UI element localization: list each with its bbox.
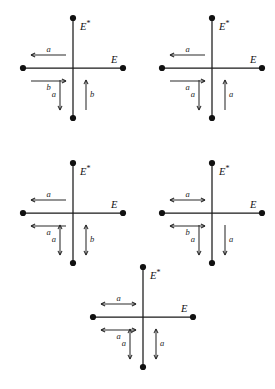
diagram-5-lower-left-arrow-label: a (116, 331, 120, 341)
diagram-2-horizontal-axis-label: E (249, 54, 257, 65)
diagram-1-horizontal-axis-label: E (110, 54, 118, 65)
diagram-2-lower-left-arrow-label: a (185, 82, 189, 92)
diagram-1-node-left (20, 65, 26, 71)
diagram-1-upper-left-arrow-label: a (46, 44, 50, 54)
diagram-2-upper-left-arrow-label: a (185, 44, 189, 54)
diagram-3-vertical-axis-star: * (87, 164, 91, 173)
diagram-5-right-vertical-arrow-label: a (160, 338, 164, 348)
diagram-2: E*Eaaaa (159, 15, 265, 121)
diagram-4-upper-left-arrow-label: a (185, 189, 189, 199)
diagram-5-vertical-axis-star: * (157, 268, 161, 277)
diagram-5-node-top (140, 264, 146, 270)
diagram-5: E*Eaaaa (90, 264, 196, 370)
diagram-4-node-right (259, 210, 265, 216)
diagram-3-lower-left-arrow-label: a (46, 227, 50, 237)
diagram-4-node-left (159, 210, 165, 216)
diagram-2-node-bottom (209, 115, 215, 121)
diagram-2-node-top (209, 15, 215, 21)
diagram-1-node-bottom (70, 115, 76, 121)
diagram-5-left-vertical-arrow-label: a (122, 338, 126, 348)
diagram-3-left-vertical-arrow-label: a (52, 234, 56, 244)
figure-canvas: E*EababE*EaaaaE*EaaabE*EabaaE*Eaaaa (0, 0, 275, 389)
diagram-5-node-left (90, 314, 96, 320)
diagram-3-upper-left-arrow-label: a (46, 189, 50, 199)
diagram-3-node-bottom (70, 260, 76, 266)
diagram-1-right-vertical-arrow-label: b (90, 89, 94, 99)
diagram-2-left-vertical-arrow-label: a (191, 89, 195, 99)
diagram-2-right-vertical-arrow-label: a (229, 89, 233, 99)
diagram-1-node-top (70, 15, 76, 21)
diagram-1: E*Eabab (20, 15, 126, 121)
diagram-1-left-vertical-arrow-label: a (52, 89, 56, 99)
diagram-2-node-left (159, 65, 165, 71)
diagram-5-horizontal-axis-label: E (180, 303, 188, 314)
diagram-1-vertical-axis-star: * (87, 19, 91, 28)
diagram-3-node-right (120, 210, 126, 216)
diagram-3-right-vertical-arrow-label: b (90, 234, 94, 244)
diagram-4-left-vertical-arrow-label: a (191, 234, 195, 244)
diagram-1-lower-left-arrow-label: b (46, 82, 50, 92)
diagram-3-horizontal-axis-label: E (110, 199, 118, 210)
diagram-layer: E*EababE*EaaaaE*EaaabE*EabaaE*Eaaaa (20, 15, 265, 370)
diagram-4-lower-left-arrow-label: b (185, 227, 189, 237)
diagram-5-upper-left-arrow-label: a (116, 293, 120, 303)
diagram-4-horizontal-axis-label: E (249, 199, 257, 210)
diagram-4: E*Eabaa (159, 160, 265, 266)
diagram-4-right-vertical-arrow-label: a (229, 234, 233, 244)
diagram-2-node-right (259, 65, 265, 71)
diagram-2-vertical-axis-star: * (226, 19, 230, 28)
cross-diagram-figure: E*EababE*EaaaaE*EaaabE*EabaaE*Eaaaa (0, 0, 275, 389)
diagram-3-node-top (70, 160, 76, 166)
diagram-4-vertical-axis-star: * (226, 164, 230, 173)
diagram-3: E*Eaaab (20, 160, 126, 266)
diagram-4-node-top (209, 160, 215, 166)
diagram-3-node-left (20, 210, 26, 216)
diagram-5-node-bottom (140, 364, 146, 370)
diagram-1-node-right (120, 65, 126, 71)
diagram-5-node-right (190, 314, 196, 320)
diagram-4-node-bottom (209, 260, 215, 266)
